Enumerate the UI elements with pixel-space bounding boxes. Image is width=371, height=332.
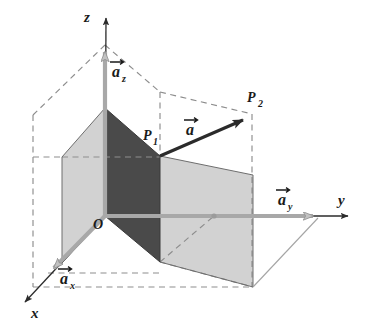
ay-vector-label-text: a xyxy=(278,191,286,208)
gray-projection-lines xyxy=(253,218,318,287)
dash-top-to-p2 xyxy=(160,92,252,114)
az-vector-label-text: a xyxy=(112,63,120,80)
z-axis-label: z xyxy=(83,9,90,25)
gray-base-to-yaxis xyxy=(253,218,318,287)
x-axis-label: x xyxy=(30,305,39,321)
p1-label-main: P xyxy=(143,128,152,143)
origin-label: O xyxy=(93,217,103,232)
a-vector-arrow xyxy=(160,120,243,156)
p1-label-subscript: 1 xyxy=(153,136,158,147)
p2-label-subscript: 2 xyxy=(257,98,263,109)
a-vector-label-text: a xyxy=(186,121,194,138)
ax-vector-label-text: a xyxy=(60,270,68,287)
a-vector-label: a xyxy=(184,118,198,138)
az-vector-label: a z xyxy=(110,60,126,84)
ax-vector-label-subscript: x xyxy=(69,280,75,291)
y-axis-label: y xyxy=(336,192,345,208)
p2-label-main: P xyxy=(247,90,256,105)
dash-az-to-leftback xyxy=(33,45,105,115)
az-vector-label-subscript: z xyxy=(121,73,126,84)
p2-label: P 2 xyxy=(247,90,263,109)
vector-diagram-figure: z y x O P 1 P 2 a a xyxy=(0,0,371,332)
vector-decomposition-svg: z y x O P 1 P 2 a a xyxy=(0,0,371,332)
right-light-face xyxy=(160,156,253,287)
projection-node-dot xyxy=(211,213,216,218)
ay-vector-label: a y xyxy=(276,188,293,212)
ay-vector-label-subscript: y xyxy=(287,201,293,212)
